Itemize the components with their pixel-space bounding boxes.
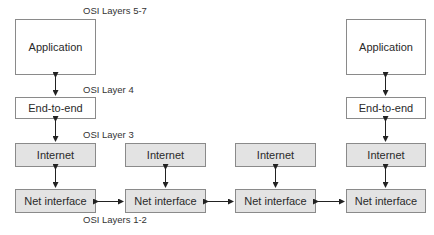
connector-arrows	[0, 0, 434, 235]
